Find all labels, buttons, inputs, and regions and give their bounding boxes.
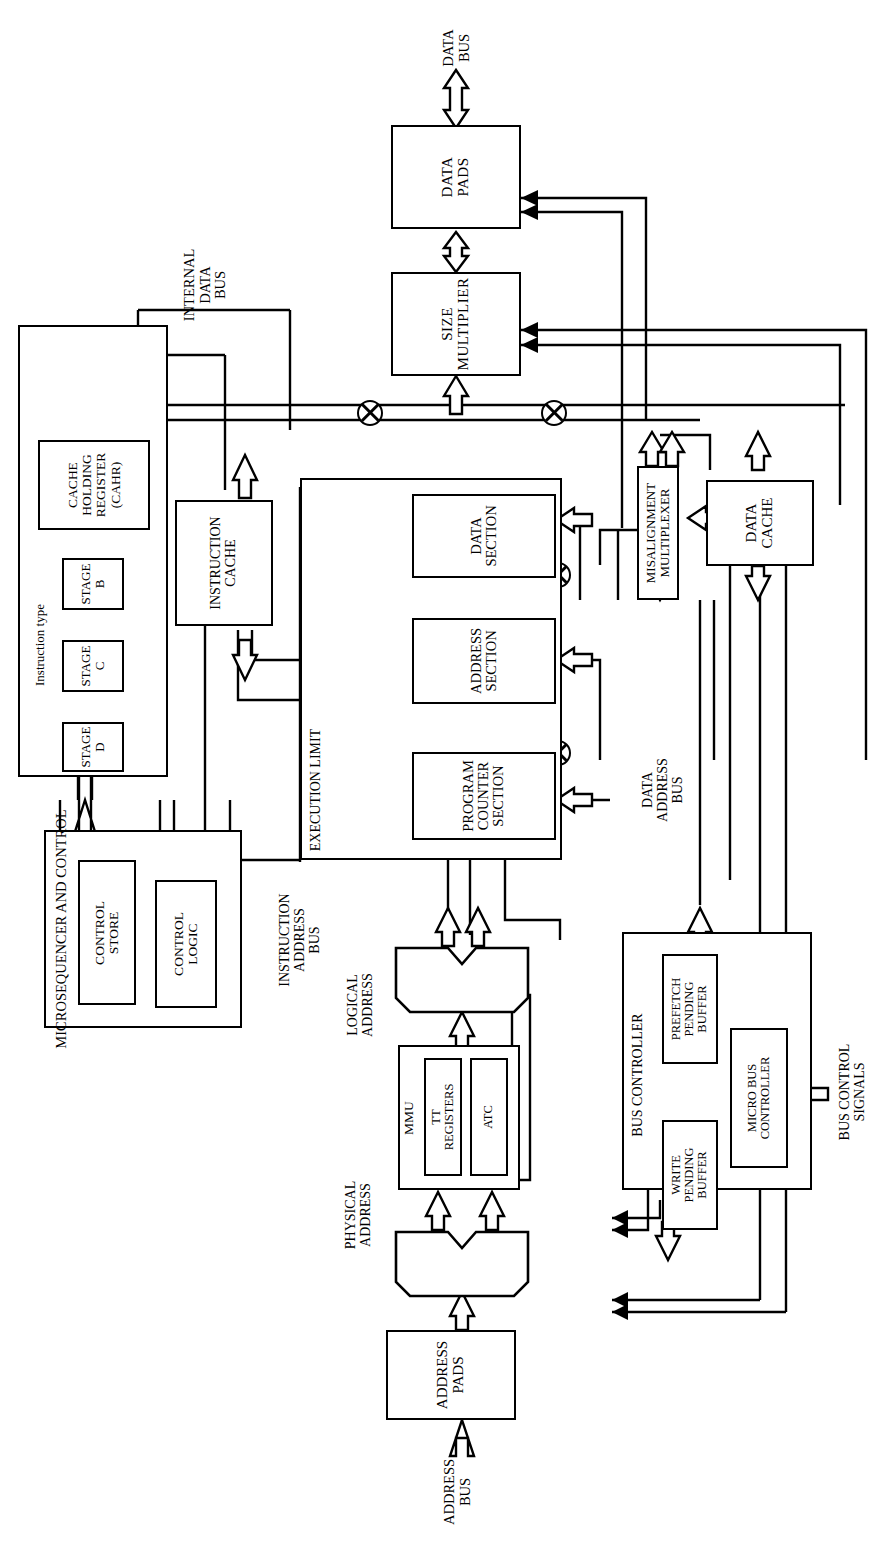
block-label: PREFETCHPENDINGBUFFER	[670, 978, 709, 1041]
block-misalignment-multiplexer[interactable]: MISALIGNMENTMULTIPLEXER	[637, 466, 679, 600]
block-label: INSTRUCTIONCACHE	[209, 516, 238, 609]
block-address-section[interactable]: ADDRESSSECTION	[412, 618, 556, 704]
block-stage-c[interactable]: STAGEC	[62, 640, 124, 692]
block-label: DATACACHE	[744, 498, 776, 549]
block-control-store[interactable]: CONTROLSTORE	[78, 860, 136, 1005]
block-program-counter-section[interactable]: PROGRAMCOUNTERSECTION	[412, 752, 556, 840]
block-tt-registers[interactable]: TTREGISTERS	[424, 1058, 462, 1176]
block-cache-holding-register[interactable]: CACHEHOLDINGREGISTER(CAHR)	[38, 440, 150, 530]
block-label: CACHEHOLDINGREGISTER(CAHR)	[66, 453, 123, 518]
microsequencer-group-label: MICROSEQUENCER AND CONTROL	[54, 809, 70, 1048]
block-address-pads[interactable]: ADDRESSPADS	[386, 1330, 516, 1420]
cpu-block-diagram: DATAPADS SIZEMULTIPLIER CACHEHOLDINGREGI…	[0, 0, 886, 1553]
block-label: CONTROLSTORE	[93, 901, 121, 965]
block-label: MICRO BUSCONTROLLER	[746, 1057, 772, 1140]
bus-label-address-bus: ADDRESSBUS	[442, 1459, 473, 1525]
block-label: ADDRESSSECTION	[469, 628, 499, 694]
block-label: STAGEC	[79, 646, 106, 687]
instruction-pipe-group	[18, 325, 168, 777]
block-label: STAGEB	[79, 564, 106, 605]
block-data-pads[interactable]: DATAPADS	[391, 125, 521, 229]
block-label: MISALIGNMENTMULTIPLEXER	[644, 483, 671, 583]
block-label: ATC	[482, 1105, 495, 1129]
logical-address-mux	[396, 948, 528, 1012]
block-control-logic[interactable]: CONTROLLOGIC	[155, 880, 217, 1008]
block-prefetch-pending-buffer[interactable]: PREFETCHPENDINGBUFFER	[662, 954, 718, 1064]
block-size-multiplier[interactable]: SIZEMULTIPLIER	[391, 272, 521, 376]
physical-address-mux	[396, 1232, 528, 1296]
bus-controller-group-label: BUS CONTROLLER	[630, 1013, 645, 1136]
block-stage-d[interactable]: STAGED	[62, 722, 124, 772]
block-label: STAGED	[79, 727, 106, 768]
block-label: CONTROLLOGIC	[172, 912, 200, 976]
bus-label-instruction-address-bus: INSTRUCTIONADDRESSBUS	[277, 893, 322, 986]
bus-label-data-address-bus: DATAADDRESSBUS	[640, 758, 685, 822]
bus-label-logical-address: LOGICALADDRESS	[345, 973, 375, 1037]
block-label: TTREGISTERS	[430, 1084, 456, 1151]
block-label: WRITEPENDINGBUFFER	[670, 1148, 709, 1203]
bus-label-instruction-type: Instruction type	[33, 604, 47, 686]
block-instruction-cache[interactable]: INSTRUCTIONCACHE	[175, 500, 273, 626]
bus-label-internal-data-bus: INTERNALDATABUS	[182, 249, 229, 322]
block-atc[interactable]: ATC	[470, 1058, 508, 1176]
block-label: ADDRESSPADS	[435, 1341, 467, 1409]
block-data-cache[interactable]: DATACACHE	[706, 480, 814, 566]
bus-label-data-bus: DATABUS	[441, 29, 472, 67]
block-write-pending-buffer[interactable]: WRITEPENDINGBUFFER	[662, 1120, 718, 1230]
block-label: DATASECTION	[469, 505, 499, 566]
block-micro-bus-controller[interactable]: MICRO BUSCONTROLLER	[730, 1028, 788, 1168]
bus-label-physical-address: PHYSICALADDRESS	[343, 1181, 373, 1249]
mmu-group-label: MMU	[402, 1101, 417, 1135]
bus-label-execution-limit: EXECUTION LIMIT	[308, 729, 323, 851]
block-label: PROGRAMCOUNTERSECTION	[461, 760, 507, 832]
bus-label-bus-control-signals: BUS CONTROLSIGNALS	[837, 1044, 867, 1141]
block-data-section[interactable]: DATASECTION	[412, 494, 556, 578]
block-stage-b[interactable]: STAGEB	[62, 558, 124, 610]
block-label: DATAPADS	[440, 157, 472, 198]
block-label: SIZEMULTIPLIER	[440, 278, 472, 371]
